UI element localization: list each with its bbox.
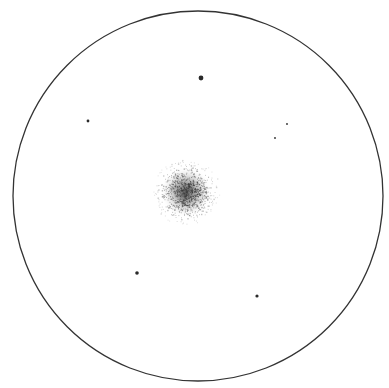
field-star — [286, 123, 288, 125]
field-star — [199, 76, 204, 81]
eyepiece-sketch — [0, 0, 389, 388]
field-star — [255, 294, 258, 297]
field-star — [274, 137, 276, 139]
field-star — [87, 120, 90, 123]
field-star — [135, 271, 139, 275]
